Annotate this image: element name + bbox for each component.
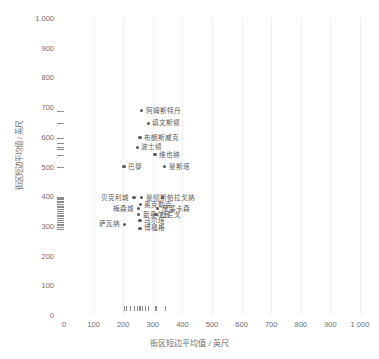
x-axis-tick-label: 1 000	[340, 320, 379, 329]
y-rug-mark	[57, 111, 64, 112]
y-axis-tick-label: 0	[14, 311, 54, 320]
data-point-label: 博福格	[144, 225, 165, 232]
x-rug-mark	[130, 306, 131, 311]
y-axis-tick-label: 800	[14, 73, 54, 82]
y-rug-mark	[57, 229, 64, 230]
gridline-vertical	[360, 18, 361, 315]
data-point-label: 曼斯塔	[169, 163, 190, 170]
gridline-vertical	[301, 18, 302, 315]
y-rug-mark	[57, 143, 64, 144]
data-point-label: 阿姆斯特丹	[146, 107, 181, 114]
x-axis-title: 街区短边平均值 / 英尺	[0, 337, 379, 348]
y-axis-tick-label: 1 000	[14, 14, 54, 23]
y-rug-mark	[57, 123, 64, 124]
gridline-vertical	[153, 18, 154, 315]
gridline-vertical	[94, 18, 95, 315]
data-point-label: 填文斯顿	[152, 120, 180, 127]
x-rug-mark	[156, 306, 157, 311]
y-axis-tick-label: 900	[14, 44, 54, 53]
y-rug-mark	[57, 138, 64, 139]
scatter-chart-figure: 街区短边平均值 / 英尺 街区短边平均值 / 英尺 01002003004005…	[0, 0, 379, 359]
data-point-label: 马尔塔	[144, 217, 165, 224]
data-point-label: 萨瓦纳	[99, 221, 120, 228]
y-rug-mark	[57, 149, 64, 150]
gridline-vertical	[242, 18, 243, 315]
data-point-label: 布朗斯威克	[144, 134, 179, 141]
data-point[interactable]	[132, 196, 135, 199]
x-rug-mark	[142, 306, 143, 311]
data-point-label: 贝克利城	[101, 194, 129, 201]
y-axis-tick-label: 500	[14, 163, 54, 172]
data-point-label: 维也纳	[159, 151, 180, 158]
data-point[interactable]	[136, 146, 139, 149]
gridline-vertical	[330, 18, 331, 315]
x-rug-mark	[145, 306, 146, 311]
gridline-vertical	[271, 18, 272, 315]
y-axis-tick-label: 300	[14, 222, 54, 231]
y-axis-tick-label: 600	[14, 133, 54, 142]
data-point[interactable]	[138, 227, 141, 230]
x-rug-mark	[165, 306, 166, 311]
y-rug-mark	[57, 167, 64, 168]
data-point-label: 巴黎	[128, 163, 142, 170]
data-point[interactable]	[138, 219, 141, 222]
x-rug-mark	[126, 306, 127, 311]
data-point-label: 梅森城	[113, 205, 134, 212]
data-point[interactable]	[153, 153, 156, 156]
y-rug-mark	[57, 155, 64, 156]
y-axis-tick-label: 200	[14, 252, 54, 261]
plot-area	[64, 18, 360, 315]
y-axis-tick-label: 400	[14, 192, 54, 201]
data-point[interactable]	[122, 165, 125, 168]
y-axis-tick-label: 100	[14, 281, 54, 290]
x-rug-mark	[134, 306, 135, 311]
gridline-vertical	[212, 18, 213, 315]
x-rug-mark	[124, 306, 125, 311]
y-axis-tick-label: 700	[14, 103, 54, 112]
x-rug-mark	[148, 306, 149, 311]
